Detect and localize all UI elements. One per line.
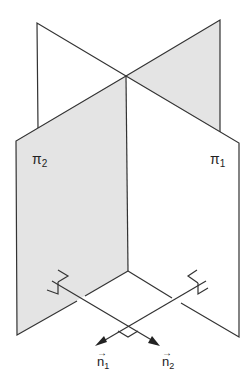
right-angle-marker (188, 270, 198, 283)
arrowhead-n1 (95, 336, 107, 346)
label-n1: →n1 (97, 355, 109, 371)
label-pi1: π1 (210, 152, 225, 169)
normal-n1-line (100, 281, 206, 343)
normal-n2-line (52, 281, 155, 342)
label-pi2: π2 (32, 152, 47, 169)
plane-pi2-front-shade (16, 76, 128, 335)
plane-pi1-front-edge (126, 76, 239, 337)
label-n2: →n2 (162, 355, 174, 371)
arrowhead-n2 (148, 336, 160, 346)
plane-pi1-back-shade (126, 20, 220, 132)
intersecting-planes-diagram (0, 0, 252, 385)
right-angle-marker (118, 331, 138, 337)
